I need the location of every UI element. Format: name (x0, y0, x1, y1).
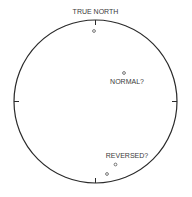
reversed-point-1 (114, 163, 117, 166)
stereonet-diagram: TRUE NORTH NORMAL? REVERSED? (0, 0, 192, 197)
normal-label: NORMAL? (110, 78, 144, 85)
reversed-label: REVERSED? (106, 152, 149, 159)
true-north-label: TRUE NORTH (73, 8, 119, 15)
north-pole-point (93, 30, 96, 33)
reversed-point-2 (106, 173, 109, 176)
primitive-circle (14, 20, 177, 183)
normal-point (123, 72, 126, 75)
